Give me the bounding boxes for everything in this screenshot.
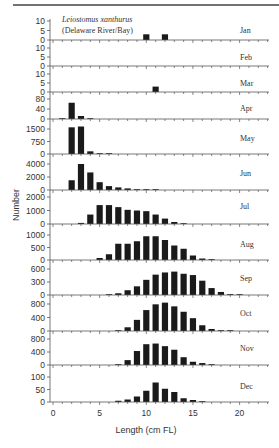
panel-mar: 0510Mar [36,66,269,97]
histogram-bar [78,164,84,190]
histogram-bar [125,210,131,224]
histogram-bar [115,244,121,260]
histogram-bar [181,249,187,260]
month-label: Jul [240,202,250,211]
panel-aug: 05001000Aug [26,224,269,265]
histogram-bar [106,205,112,224]
x-tick-label: 0 [51,408,56,418]
month-label: Oct [240,309,252,318]
panel-dec: 050100Dec [31,365,269,407]
y-tick-label: 2000 [26,192,45,202]
histogram-bar [190,275,196,295]
histogram-bar [171,246,177,261]
month-label: Sep [240,274,252,283]
histogram-bar [153,215,159,224]
histogram-bar [115,207,121,224]
histogram-bar [162,219,168,224]
length-frequency-figure: 0510Jan0510Feb0510Mar04080Apr07501500May… [0,0,279,448]
histogram-bar [134,211,140,225]
x-tick-label: 15 [188,408,198,418]
location-label: (Delaware River/Bay) [62,26,133,35]
y-tick-label: 5 [40,52,45,62]
histogram-bar [125,327,131,331]
x-tick-label: 20 [235,408,245,418]
histogram-bar [162,303,168,331]
y-tick-label: 80 [36,94,46,104]
month-label: Jan [240,26,251,35]
histogram-bar [190,256,196,261]
histogram-bar [190,362,196,365]
y-tick-label: 10 [36,43,46,53]
y-tick-label: 5 [40,26,45,36]
histogram-bar [134,351,140,365]
month-label: Nov [240,344,254,353]
histogram-bar [143,34,149,40]
histogram-bar [171,306,177,331]
histogram-bar [209,288,215,295]
x-axis-labels: 05101520 [51,408,245,418]
histogram-bar [181,398,187,402]
y-tick-label: 10 [36,69,46,79]
y-axis-title: Number [11,189,21,221]
monthly-panels: 0510Jan0510Feb0510Mar04080Apr07501500May… [26,16,269,407]
month-label: Mar [240,79,254,88]
histogram-bar [162,272,168,295]
histogram-bar [171,392,177,402]
y-tick-label: 1500 [26,124,45,134]
y-tick-label: 100 [31,372,45,382]
histogram-bar [171,350,177,365]
histogram-bar [199,281,205,295]
panel-sep: 0300600Sep [31,260,269,300]
y-tick-label: 750 [31,137,45,147]
y-tick-label: 1000 [26,206,45,216]
histogram-bar [134,286,140,295]
histogram-bar [78,127,84,155]
panel-jul: 010002000Jul [26,190,269,229]
histogram-bar [143,280,149,295]
histogram-bar [153,236,159,260]
histogram-bar [143,211,149,224]
histogram-bar [87,172,93,190]
histogram-bar [69,103,75,119]
panel-oct: 0400800Oct [31,295,269,336]
y-tick-label: 0 [40,397,45,407]
histogram-bar [143,391,149,402]
y-tick-label: 5 [40,78,45,88]
histogram-bar [134,320,140,331]
histogram-bar [69,180,75,190]
y-tick-label: 0 [40,360,45,370]
histogram-bar [162,346,168,365]
panel-apr: 04080Apr [36,92,269,124]
histogram-bar [134,397,140,403]
histogram-bar [162,34,168,40]
y-tick-label: 4000 [26,159,45,169]
histogram-bar [78,116,84,119]
y-tick-label: 50 [36,385,46,395]
histogram-bar [125,360,131,365]
histogram-bar [143,236,149,260]
histogram-bar [181,274,187,295]
histogram-bar [97,182,103,190]
histogram-bar [97,205,103,224]
histogram-bar [87,215,93,224]
y-tick-label: 40 [36,104,46,114]
month-label: Dec [240,382,253,391]
y-tick-label: 2000 [26,172,45,182]
y-tick-label: 0 [40,149,45,159]
y-tick-label: 300 [31,277,45,287]
y-tick-label: 400 [31,313,45,323]
month-label: Aug [240,240,254,249]
panel-may: 07501500May [26,119,269,159]
histogram-bar [190,318,196,331]
histogram-bar [162,389,168,402]
y-tick-label: 500 [31,243,45,253]
month-label: Jun [240,169,251,178]
month-label: May [240,134,255,143]
x-axis-title: Length (cm FL) [115,425,176,435]
histogram-bar [218,292,224,295]
x-tick-label: 10 [142,408,152,418]
histogram-bar [171,272,177,295]
panel-nov: 0400800Nov [31,331,269,370]
histogram-bar [143,344,149,365]
y-tick-label: 0 [40,114,45,124]
